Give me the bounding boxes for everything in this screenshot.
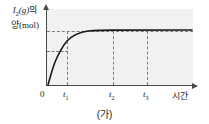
y-axis-label-line1: I2(g)의 [4,5,46,20]
plot-area [47,9,193,85]
x-axis-arrow-icon [192,83,198,89]
x-axis-label: 시간 [172,89,188,102]
y-axis-label: I2(g)의 양(mol) [4,5,46,31]
x-tick-subscript-t1: 1 [66,95,69,101]
x-tick-subscript-t2: 2 [112,95,115,101]
x-tick-label-t3: t3 [143,89,149,101]
x-tick-label-t1: t1 [63,89,69,101]
x-axis-line [46,85,193,86]
x-tick-label-t2: t2 [109,89,115,101]
gridline-t3-vertical [147,31,148,85]
y-axis-line [46,8,47,86]
x-tick-label-0: 0 [40,89,45,99]
x-tick-subscript-t3: 3 [146,95,149,101]
y-axis-label-line2: 양(mol) [4,20,46,31]
chart-figure: I2(g)의 양(mol) 0 t1 t2 t3 시간 (가) [0,0,209,124]
figure-caption: (가) [0,106,209,121]
gridline-t1-vertical [67,31,68,85]
gridline-equilibrium-horizontal [47,31,193,32]
gridline-t1-horizontal [47,51,68,52]
gridline-t2-vertical [113,31,114,85]
